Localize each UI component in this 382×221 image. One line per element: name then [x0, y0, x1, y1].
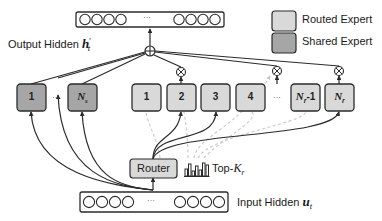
routed-expert-label: Nr-1 [291, 90, 320, 104]
router-label: Router [130, 162, 177, 174]
legend-swatch-shared [272, 33, 296, 53]
topk-histogram-icon [184, 163, 210, 177]
topk-label: Top-Kr [212, 161, 244, 177]
routed-expert-label: 2 [167, 91, 196, 102]
input-subscript: t [310, 202, 312, 211]
sum-node-icon [145, 46, 155, 56]
routed-expert-label: 4 [236, 91, 265, 102]
output-ellipsis: ··· [143, 13, 151, 22]
gate-multiply-icon [273, 67, 282, 76]
input-symbol: u [302, 194, 309, 209]
shared-expert-output-lines [31, 52, 145, 84]
output-subscript: t [88, 44, 90, 53]
legend-swatch-routed [272, 11, 296, 31]
gate-multiply-icon [177, 68, 186, 77]
input-hidden-text: Input Hidden [237, 196, 302, 208]
shared-ellipsis: ··· [52, 93, 60, 102]
output-hidden-label: Output Hidden h′t [8, 36, 93, 53]
routed-expert-label: 1 [132, 91, 161, 102]
shared-expert-label: Ns [68, 90, 97, 105]
input-hidden-label: Input Hidden ut [237, 194, 312, 211]
moe-diagram-canvas [0, 0, 382, 221]
output-hidden-text: Output Hidden [8, 38, 82, 50]
legend-label-shared: Shared Expert [302, 35, 372, 47]
legend-label-routed: Routed Expert [302, 13, 372, 25]
input-ellipsis: ··· [147, 196, 155, 205]
selected-routing-lines [153, 112, 339, 190]
routed-expert-label: 3 [201, 91, 230, 102]
shared-expert-label: 1 [17, 91, 46, 102]
gate-multiply-icon [335, 67, 344, 76]
routed-ellipsis: ··· [273, 93, 281, 102]
routed-expert-label: Nr [325, 90, 354, 104]
